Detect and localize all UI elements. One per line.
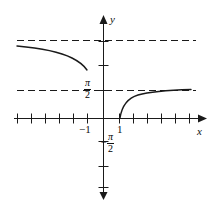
graph-figure: y x −1 1 π 2 − π 2 <box>0 0 217 209</box>
pi-numerator: π <box>84 78 91 88</box>
y-axis-label: y <box>110 14 115 25</box>
x-axis-arrowhead <box>198 115 207 123</box>
two-denominator: 2 <box>84 90 91 100</box>
curve-right-branch <box>120 90 191 119</box>
pi-numerator-neg: π <box>107 132 114 142</box>
x-tick-label-neg-one: −1 <box>79 124 91 135</box>
y-tick-label-neg-pi-over-two: π 2 <box>107 132 114 154</box>
y-axis-arrowhead <box>100 15 108 24</box>
x-axis-label: x <box>197 126 202 137</box>
negative-sign: − <box>101 137 107 148</box>
curve-left-branch <box>17 46 87 70</box>
coordinate-plot <box>0 0 217 209</box>
y-axis-bottom-arrowhead <box>100 192 108 200</box>
two-denominator-neg: 2 <box>107 144 114 154</box>
y-tick-label-pi-over-two: π 2 <box>84 78 91 100</box>
x-tick-label-one: 1 <box>117 124 123 135</box>
